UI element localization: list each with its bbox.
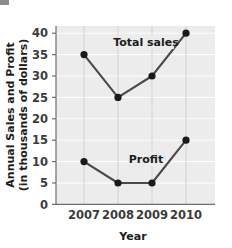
x-axis-tick-labels: 2007 2008 2009 2010 [68,208,202,222]
y-tick-label: 15 [32,133,48,147]
x-tick-label: 2008 [102,208,134,222]
y-axis-title-line2: (in thousands of dollars) [17,39,30,192]
y-tick-label: 0 [40,198,48,212]
series-label-profit: Profit [129,153,163,166]
corner-mark [0,0,9,5]
series-label-total-sales: Total sales [113,36,179,49]
data-point [148,179,155,186]
y-tick-label: 35 [32,48,48,62]
chart-figure: 40 35 30 25 20 15 10 5 0 2007 2008 2009 … [0,0,232,248]
y-tick-label: 30 [32,69,48,83]
y-axis-title-line1: Annual Sales and Profit [4,42,17,187]
data-point [182,30,189,37]
data-point [80,158,87,165]
y-tick-label: 10 [32,155,48,169]
y-tick-label: 20 [32,112,48,126]
x-axis-title: Year [118,230,147,243]
data-point [114,179,121,186]
x-tick-label: 2007 [68,208,100,222]
y-tick-label: 5 [40,176,48,190]
x-tick-label: 2010 [170,208,202,222]
y-tick-label: 40 [32,26,48,40]
y-tick-label: 25 [32,91,48,105]
y-axis-title: Annual Sales and Profit (in thousands of… [4,39,30,192]
data-point [80,51,87,58]
data-point [182,137,189,144]
line-chart: 40 35 30 25 20 15 10 5 0 2007 2008 2009 … [0,0,232,248]
data-point [148,72,155,79]
plot-area-background [56,26,215,204]
data-point [114,94,121,101]
x-tick-label: 2009 [136,208,168,222]
